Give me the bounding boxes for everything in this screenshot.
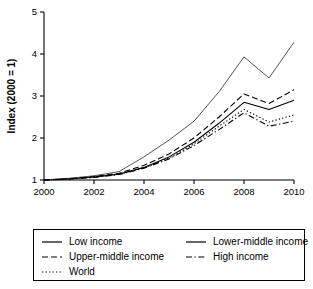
y-tick-group: 12345 bbox=[32, 6, 44, 185]
legend-swatch-solid bbox=[185, 237, 207, 247]
legend-item-label: Upper-middle income bbox=[69, 252, 164, 262]
x-tick-label: 2010 bbox=[283, 186, 304, 197]
x-tick-label: 2004 bbox=[133, 186, 154, 197]
x-tick-label: 2008 bbox=[233, 186, 254, 197]
series-line-high-income bbox=[44, 113, 294, 180]
legend-item-label: World bbox=[69, 267, 95, 277]
legend-items: Low incomeLower-middle incomeUpper-middl… bbox=[34, 230, 304, 280]
legend-row: Upper-middle incomeHigh income bbox=[41, 249, 299, 264]
series-group bbox=[44, 42, 294, 180]
plot-area: 12345 200020022004200620082010 Index (20… bbox=[0, 0, 313, 200]
x-tick-group: 200020022004200620082010 bbox=[33, 180, 304, 197]
y-axis-title: Index (2000 = 1) bbox=[6, 59, 17, 134]
legend-item-label: High income bbox=[213, 252, 269, 262]
legend-item[interactable]: Low income bbox=[41, 237, 185, 247]
chart-figure: 12345 200020022004200620082010 Index (20… bbox=[0, 0, 313, 289]
x-tick-label: 2002 bbox=[83, 186, 104, 197]
legend-row: World bbox=[41, 264, 299, 279]
legend-swatch-solid bbox=[41, 237, 63, 247]
y-tick-label: 5 bbox=[32, 6, 37, 17]
legend-swatch-dashed bbox=[41, 252, 63, 262]
legend-swatch-dotted bbox=[41, 267, 63, 277]
legend-item-label: Low income bbox=[69, 237, 122, 247]
series-line-upper-middle-income bbox=[44, 90, 294, 180]
legend-item[interactable]: Upper-middle income bbox=[41, 252, 185, 262]
y-tick-label: 4 bbox=[32, 48, 37, 59]
y-tick-label: 3 bbox=[32, 90, 37, 101]
legend: Low incomeLower-middle incomeUpper-middl… bbox=[33, 229, 305, 281]
x-tick-label: 2000 bbox=[33, 186, 54, 197]
legend-item[interactable]: High income bbox=[185, 252, 299, 262]
chart-svg: 12345 200020022004200620082010 Index (20… bbox=[0, 0, 313, 200]
legend-row: Low incomeLower-middle income bbox=[41, 234, 299, 249]
legend-item[interactable]: Lower-middle income bbox=[185, 237, 308, 247]
y-tick-label: 1 bbox=[32, 174, 37, 185]
legend-item-label: Lower-middle income bbox=[213, 237, 308, 247]
legend-item[interactable]: World bbox=[41, 267, 185, 277]
x-tick-label: 2006 bbox=[183, 186, 204, 197]
legend-swatch-dashdot bbox=[185, 252, 207, 262]
y-tick-label: 2 bbox=[32, 132, 37, 143]
